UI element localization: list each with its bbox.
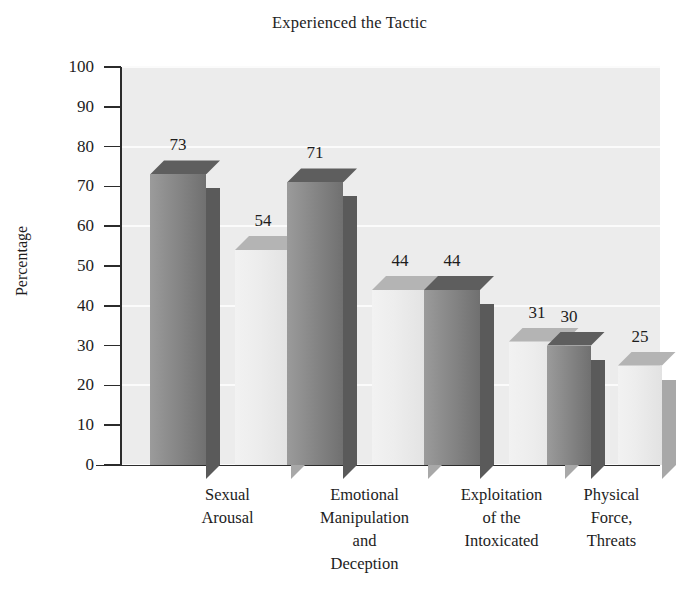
category-label-line: Force, [522, 506, 699, 529]
category-label-line: Threats [522, 529, 699, 552]
category-label-line: Physical [522, 483, 699, 506]
category-label: PhysicalForce,Threats [522, 483, 699, 552]
y-axis-tick [104, 106, 121, 108]
bar-front-face [372, 290, 428, 465]
y-axis-tick [104, 146, 121, 148]
y-axis-tick-label: 90 [48, 98, 94, 115]
y-axis-tick-label: 30 [48, 337, 94, 354]
y-axis-tick-label: 80 [48, 138, 94, 155]
bar-value-label: 73 [136, 136, 220, 153]
bar-front-face [150, 174, 206, 465]
y-axis-tick [104, 464, 121, 466]
y-axis-tick [104, 305, 121, 307]
y-axis-tick-label: 100 [48, 58, 94, 75]
bar-front-face [287, 182, 343, 465]
y-axis-tick [104, 385, 121, 387]
y-axis-tick [104, 345, 121, 347]
bar: 54 [235, 250, 291, 465]
y-axis-tick [104, 66, 121, 68]
bar-side-face [206, 188, 220, 479]
bar: 25 [618, 366, 662, 466]
bar-front-face [424, 290, 480, 465]
bar-value-label: 30 [533, 308, 605, 325]
category-label-line: Deception [275, 552, 455, 575]
y-axis-tick [104, 424, 121, 426]
gridline [121, 66, 660, 68]
bar: 73 [150, 174, 206, 465]
bar-side-face [591, 360, 605, 479]
bar-front-face [618, 366, 662, 466]
y-axis-tick-label: 40 [48, 297, 94, 314]
y-axis-title: Percentage [13, 181, 31, 341]
chart-title: Experienced the Tactic [0, 13, 699, 33]
bar-value-label: 71 [273, 144, 357, 161]
y-axis-tick-label: 20 [48, 376, 94, 393]
y-axis-tick-label: 70 [48, 177, 94, 194]
bar-value-label: 25 [604, 328, 676, 345]
y-axis-tick [104, 186, 121, 188]
bar-side-face [480, 304, 494, 479]
y-axis-tick [104, 265, 121, 267]
bar-chart: Experienced the Tactic 10090807060504030… [0, 0, 699, 601]
y-axis-tick-label: 0 [48, 456, 94, 473]
bar-front-face [547, 346, 591, 465]
bar: 71 [287, 182, 343, 465]
bar-value-label: 44 [410, 252, 494, 269]
bar: 44 [424, 290, 480, 465]
bar-front-face [235, 250, 291, 465]
y-axis-tick-label: 60 [48, 217, 94, 234]
bar: 30 [547, 346, 591, 465]
y-axis-tick-label: 50 [48, 257, 94, 274]
bar-side-face [343, 196, 357, 479]
bar-side-face [662, 380, 676, 480]
bar: 44 [372, 290, 428, 465]
y-axis-tick [104, 225, 121, 227]
y-axis-tick-label: 10 [48, 416, 94, 433]
